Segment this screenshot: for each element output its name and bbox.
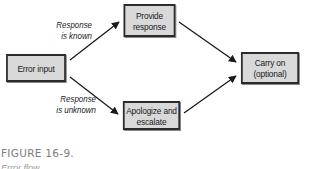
edge-label-line: Response bbox=[52, 94, 96, 105]
edge-apologize-to-carry bbox=[184, 76, 236, 113]
figure-caption-label: FIGURE 16-9. bbox=[1, 147, 74, 159]
edge-label-line: is known bbox=[55, 31, 92, 42]
edge-label-line: is unknown bbox=[52, 105, 96, 116]
node-apologize-escalate: Apologize and escalate bbox=[123, 101, 180, 130]
node-provide-response: Provide response bbox=[124, 4, 176, 37]
node-label-line: escalate bbox=[126, 116, 177, 127]
error-flow-diagram: Response is known Response is unknown Er… bbox=[0, 0, 311, 140]
node-carry-on: Carry on (optional) bbox=[241, 52, 299, 84]
edge-label-response-known: Response is known bbox=[55, 20, 92, 42]
node-label-line: Carry on bbox=[253, 57, 286, 68]
node-label-line: (optional) bbox=[253, 68, 286, 79]
node-error-input: Error input bbox=[6, 54, 66, 82]
node-label-line: response bbox=[133, 21, 166, 32]
figure-caption-subtitle: Error flow bbox=[1, 163, 40, 169]
edge-provide-to-carry bbox=[179, 22, 236, 62]
edge-label-response-unknown: Response is unknown bbox=[52, 94, 96, 116]
node-label-line: Provide bbox=[133, 10, 166, 21]
node-label: Error input bbox=[17, 63, 54, 74]
node-label-line: Apologize and bbox=[126, 105, 177, 116]
edge-label-line: Response bbox=[55, 20, 92, 31]
